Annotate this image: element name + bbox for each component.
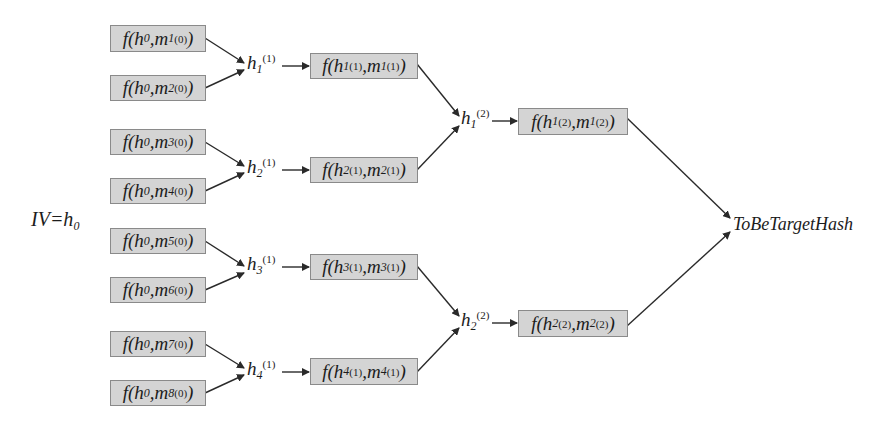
iv-label: IV=h0 [31, 208, 79, 234]
h2-label-2: h2(2) [461, 309, 489, 334]
h1-label-1: h1(1) [247, 52, 275, 77]
target-hash-label: ToBeTargetHash [733, 214, 853, 235]
level1-box-1: f(h1(1),m1(1)) [310, 53, 418, 79]
level0-box-1: f(h0,m1(0)) [110, 25, 206, 52]
level2-box-1: f(h1(2),m1(2)) [518, 108, 628, 135]
h1-label-3: h3(1) [247, 253, 275, 278]
level0-box-4: f(h0,m4(0)) [110, 178, 206, 204]
level2-box-2: f(h2(2),m2(2)) [518, 310, 628, 337]
level0-box-5: f(h0,m5(0)) [110, 228, 206, 254]
level0-box-8: f(h0,m8(0)) [110, 380, 206, 406]
h1-label-4: h4(1) [247, 358, 275, 383]
level0-box-6: f(h0,m6(0)) [110, 277, 206, 303]
level0-box-7: f(h0,m7(0)) [110, 331, 206, 357]
level1-box-2: f(h2(1),m2(1)) [310, 157, 418, 183]
h2-label-1: h1(2) [461, 107, 489, 132]
level1-box-4: f(h4(1),m4(1)) [310, 358, 418, 385]
level1-box-3: f(h3(1),m3(1)) [310, 254, 418, 280]
level0-box-3: f(h0,m3(0)) [110, 129, 206, 155]
iv-subscript: 0 [73, 219, 79, 233]
iv-text: IV=h [31, 208, 73, 230]
hash-tree-diagram: IV=h0 f(h0,m1(0)) f(h0,m2(0)) f(h0,m3(0)… [0, 0, 879, 434]
level0-box-2: f(h0,m2(0)) [110, 75, 206, 101]
h1-label-2: h2(1) [247, 156, 275, 181]
